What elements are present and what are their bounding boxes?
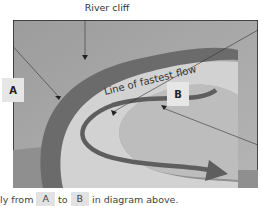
river-cliff-label: River cliff	[52, 2, 162, 13]
caption-prefix: ly from	[0, 194, 33, 205]
point-b-label: B	[167, 82, 189, 106]
caption-from-box: A	[36, 192, 55, 206]
caption-suffix: in diagram above.	[92, 194, 178, 205]
point-a-label: A	[2, 78, 24, 102]
caption-to-word: to	[58, 194, 68, 205]
meander-diagram: Line of fastest flow	[13, 20, 258, 188]
caption: ly from A to B in diagram above.	[0, 192, 262, 206]
caption-to-box: B	[71, 192, 90, 206]
